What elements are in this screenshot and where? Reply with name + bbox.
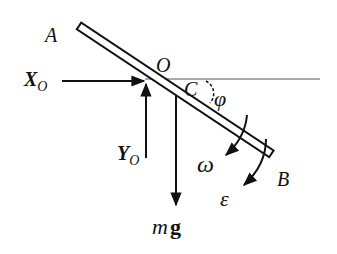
label-Yo: YO: [117, 142, 139, 168]
label-A: A: [43, 24, 58, 46]
label-epsilon: ε: [220, 186, 229, 211]
label-B: B: [277, 168, 289, 190]
label-C: C: [184, 78, 198, 100]
label-phi: φ: [214, 86, 226, 111]
label-mg: mg: [152, 214, 181, 239]
label-O: O: [156, 54, 170, 76]
label-Xo: XO: [23, 68, 47, 94]
angle-phi-arc: [206, 81, 214, 103]
rigid-body-diagram: A B O C φ ω ε XO YO mg: [0, 0, 337, 254]
label-omega: ω: [197, 151, 214, 177]
